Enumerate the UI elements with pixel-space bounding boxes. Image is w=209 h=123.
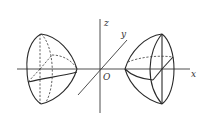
x-axis-label: x (191, 69, 196, 79)
y-axis (78, 40, 127, 95)
right-solid-outline-top (125, 34, 162, 69)
right-solid-radius-upper (162, 57, 173, 69)
left-solid-outline-bottom (41, 69, 77, 104)
left-solid-outline-top (41, 34, 77, 69)
right-solid-outline-bottom (125, 69, 162, 104)
left-solid-hidden-meridian (41, 34, 52, 102)
origin-label: O (103, 72, 111, 82)
left-solid-hidden-top-arc (52, 55, 77, 69)
diagram-canvas: z y x O (0, 0, 209, 123)
coordinate-diagram: z y x O (0, 0, 209, 123)
z-axis-label: z (103, 18, 109, 28)
left-solid-hidden-radius (40, 55, 52, 69)
y-axis-label: y (120, 29, 127, 39)
right-solid-radius (153, 69, 162, 80)
